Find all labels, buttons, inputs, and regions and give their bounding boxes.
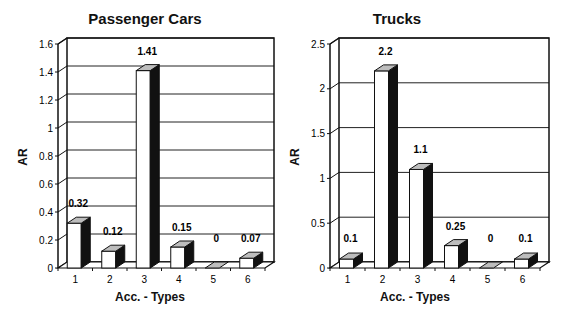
y-tick-label: 2.5: [311, 39, 325, 50]
y-tick-label: 0: [319, 263, 325, 274]
y-axis-top: [330, 38, 339, 44]
x-tick-label: 1: [72, 274, 78, 285]
y-tick-label: 1: [319, 173, 325, 184]
value-label: 2.2: [379, 46, 393, 57]
value-label: 0.1: [344, 233, 358, 244]
chart-trucks: 00.511.522.510.122.231.140.255060.1 Truc…: [282, 0, 563, 318]
bar: [171, 241, 194, 268]
gridline-diagonal: [58, 150, 67, 156]
bar: [375, 65, 398, 268]
gridline-diagonal: [330, 172, 339, 178]
x-tick-label: 2: [107, 274, 113, 285]
gridline-diagonal: [58, 66, 67, 72]
value-label: 0.12: [103, 226, 123, 237]
value-label: 0: [213, 233, 219, 244]
chart-title: Trucks: [337, 10, 457, 27]
bar: [136, 65, 159, 268]
chart-title: Passenger Cars: [70, 10, 220, 27]
value-label: 0.1: [519, 233, 533, 244]
y-tick-label: 0.6: [39, 179, 53, 190]
y-tick-label: 0.5: [311, 218, 325, 229]
x-axis-title: Acc. - Types: [360, 290, 470, 304]
x-tick-label: 3: [415, 274, 421, 285]
y-axis-title: AR: [16, 148, 30, 165]
y-tick-label: 1.6: [39, 39, 53, 50]
bar-front: [340, 259, 354, 268]
gridline-diagonal: [58, 206, 67, 212]
bar-side: [81, 217, 90, 268]
bar-front: [515, 259, 529, 268]
y-tick-label: 1.4: [39, 67, 53, 78]
bar: [445, 240, 468, 268]
gridline-diagonal: [58, 234, 67, 240]
x-axis-title: Acc. - Types: [95, 290, 205, 304]
gridline-diagonal: [330, 83, 339, 89]
x-tick-label: 6: [245, 274, 251, 285]
x-tick-label: 3: [141, 274, 147, 285]
value-label: 0.15: [172, 222, 192, 233]
x-tick-label: 5: [485, 274, 491, 285]
gridline-diagonal: [58, 94, 67, 100]
x-tick-label: 4: [176, 274, 182, 285]
value-label: 1.41: [138, 46, 158, 57]
x-tick-label: 5: [210, 274, 216, 285]
y-tick-label: 0.2: [39, 235, 53, 246]
x-tick-label: 2: [380, 274, 386, 285]
gridline-diagonal: [58, 122, 67, 128]
y-tick-label: 1.2: [39, 95, 53, 106]
gridline-diagonal: [330, 217, 339, 223]
value-label: 0.32: [69, 198, 89, 209]
value-label: 1.1: [414, 144, 428, 155]
bar-front: [102, 251, 116, 268]
bar-front: [410, 169, 424, 268]
y-tick-label: 0.8: [39, 151, 53, 162]
bar-front: [240, 258, 254, 268]
bar-side: [424, 163, 433, 268]
back-wall: [339, 38, 549, 262]
x-tick-label: 4: [450, 274, 456, 285]
trucks-plot: 00.511.522.510.122.231.140.255060.1: [282, 0, 563, 318]
bar-front: [375, 71, 389, 268]
x-tick-label: 1: [345, 274, 351, 285]
bar-front: [445, 246, 459, 268]
bar: [102, 245, 125, 268]
y-tick-label: 1: [47, 123, 53, 134]
y-tick-label: 0.4: [39, 207, 53, 218]
value-label: 0.25: [446, 221, 466, 232]
bar-front: [67, 223, 81, 268]
bar-side: [150, 65, 159, 268]
bar: [410, 163, 433, 268]
y-tick-label: 2: [319, 83, 325, 94]
bar-side: [389, 65, 398, 268]
y-tick-label: 0: [47, 263, 53, 274]
gridline-diagonal: [58, 178, 67, 184]
bar-front: [136, 71, 150, 268]
gridline-diagonal: [330, 128, 339, 134]
chart-passenger-cars: 00.20.40.60.811.21.41.610.3220.1231.4140…: [0, 0, 282, 318]
y-axis-top: [58, 38, 67, 44]
value-label: 0.07: [241, 233, 261, 244]
passenger-cars-plot: 00.20.40.60.811.21.41.610.3220.1231.4140…: [0, 0, 282, 318]
y-axis-title: AR: [288, 148, 302, 165]
bar-front: [171, 247, 185, 268]
x-tick-label: 6: [520, 274, 526, 285]
bar: [67, 217, 90, 268]
y-tick-label: 1.5: [311, 128, 325, 139]
value-label: 0: [488, 233, 494, 244]
